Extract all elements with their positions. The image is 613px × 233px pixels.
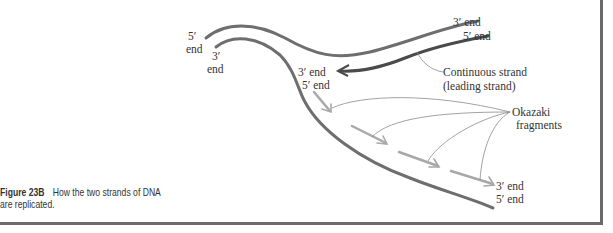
figure-caption: Figure 23BHow the two strands of DNA are… <box>0 186 168 210</box>
label-fork-3prime-end: 3′ end <box>298 66 326 78</box>
label-top-left-5prime-end: end <box>186 43 203 55</box>
label-top-right-5prime-end: 5′ end <box>463 30 491 42</box>
figure-label: Figure 23B <box>0 186 44 198</box>
label-top-left-3prime: 3′ <box>212 50 220 62</box>
label-bottom-3prime-end: 3′ end <box>496 180 524 192</box>
label-bottom-5prime-end: 5′ end <box>496 193 524 205</box>
label-top-left-3prime-end: end <box>207 63 224 75</box>
label-leading-strand: (leading strand) <box>443 80 516 93</box>
parental-strand-bottom <box>216 39 493 208</box>
label-top-right-3prime-end: 3′ end <box>453 16 481 28</box>
label-okazaki: Okazaki <box>512 106 550 118</box>
label-fork-5prime-end: 5′ end <box>302 79 330 91</box>
label-continuous-strand: Continuous strand <box>443 66 527 78</box>
okazaki-fragments <box>314 92 494 186</box>
label-fragments: fragments <box>516 119 563 132</box>
label-top-left-5prime: 5′ <box>188 30 196 42</box>
